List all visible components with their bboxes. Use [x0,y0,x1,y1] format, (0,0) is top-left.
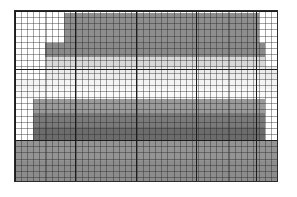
heatmap-band [33,127,265,141]
heatmap-band [15,89,277,99]
chart-screenshot [0,0,297,197]
major-gridline-horizontal [15,181,277,182]
band-layer [15,11,277,181]
heatmap-band [45,57,264,67]
major-gridline-vertical [277,11,278,181]
heatmap-band [33,113,265,127]
heatmap-band [15,79,277,89]
heatmap-band [64,13,259,44]
plot-area [14,10,278,182]
heatmap-band [15,161,277,181]
heatmap-band [33,99,265,113]
heatmap-band [45,67,277,79]
heatmap-band [45,43,264,57]
heatmap-band [15,140,277,160]
